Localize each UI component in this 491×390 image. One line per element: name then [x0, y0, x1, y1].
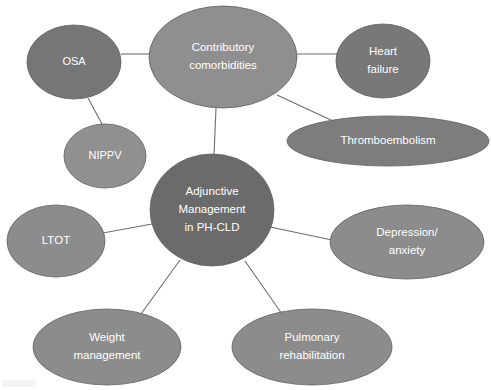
node-thromboembolism-label-line: Thromboembolism: [340, 134, 435, 146]
mind-map-canvas: OSAContributorycomorbiditiesHeartfailure…: [0, 0, 491, 390]
node-pulmonary-rehabilitation-shape: [232, 309, 392, 385]
node-nippv-label-line: NIPPV: [88, 149, 122, 161]
node-weight-management-shape: [33, 309, 181, 385]
edge-osa-nippv-connector: [88, 98, 102, 124]
node-osa-label: OSA: [62, 55, 86, 67]
node-depression-anxiety[interactable]: Depression/anxiety: [330, 205, 484, 279]
mind-map-diagram: OSAContributorycomorbiditiesHeartfailure…: [0, 0, 491, 390]
node-ltot-label: LTOT: [42, 234, 70, 246]
node-depression-anxiety-shape: [330, 205, 484, 279]
node-contributory-comorbidities-label-line: comorbidities: [189, 59, 257, 71]
node-nippv[interactable]: NIPPV: [64, 124, 146, 188]
node-center-label-line: in PH-CLD: [185, 221, 240, 233]
edge-comorbidities-thromboembolism-connector: [277, 95, 333, 121]
node-weight-management-label-line: Weight: [89, 331, 125, 343]
node-heart-failure-shape: [336, 24, 430, 98]
node-center-label-line: Management: [178, 203, 246, 215]
node-center[interactable]: AdjunctiveManagementin PH-CLD: [150, 154, 274, 266]
node-ltot-label-line: LTOT: [42, 234, 70, 246]
node-thromboembolism-label: Thromboembolism: [340, 134, 435, 146]
node-nippv-label: NIPPV: [88, 149, 122, 161]
node-thromboembolism[interactable]: Thromboembolism: [287, 116, 489, 166]
node-pulmonary-rehabilitation-label-line: Pulmonary: [285, 331, 340, 343]
node-contributory-comorbidities-label-line: Contributory: [192, 41, 255, 53]
node-pulmonary-rehabilitation[interactable]: Pulmonaryrehabilitation: [232, 309, 392, 385]
edge-center-pulmonary-connector: [245, 261, 282, 314]
node-osa[interactable]: OSA: [27, 25, 121, 99]
node-ltot[interactable]: LTOT: [7, 205, 105, 277]
edge-comorbidities-center-connector: [214, 108, 216, 155]
node-heart-failure[interactable]: Heartfailure: [336, 24, 430, 98]
node-center-label-line: Adjunctive: [185, 185, 238, 197]
nodes-group: OSAContributorycomorbiditiesHeartfailure…: [7, 6, 489, 385]
node-weight-management-label-line: management: [73, 349, 141, 361]
scan-artifact: [2, 380, 36, 387]
edge-center-weight-connector: [141, 260, 180, 314]
node-heart-failure-label-line: Heart: [369, 45, 398, 57]
node-osa-label-line: OSA: [62, 55, 86, 67]
node-depression-anxiety-label-line: Depression/: [376, 226, 438, 238]
node-contributory-comorbidities[interactable]: Contributorycomorbidities: [149, 6, 297, 108]
node-weight-management[interactable]: Weightmanagement: [33, 309, 181, 385]
node-depression-anxiety-label-line: anxiety: [389, 244, 426, 256]
node-pulmonary-rehabilitation-label-line: rehabilitation: [279, 349, 344, 361]
node-center-label: AdjunctiveManagementin PH-CLD: [178, 185, 246, 233]
node-contributory-comorbidities-shape: [149, 6, 297, 108]
edge-center-depression-connector: [270, 227, 332, 240]
node-heart-failure-label-line: failure: [367, 63, 398, 75]
edge-center-ltot-connector: [103, 224, 152, 233]
